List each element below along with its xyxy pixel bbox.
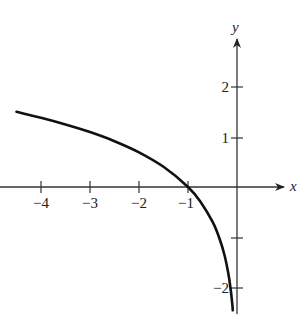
x-tick-label: −4 <box>33 195 49 211</box>
x-tick-label: −3 <box>82 195 98 211</box>
y-tick-label: 1 <box>222 130 230 146</box>
x-axis-label: x <box>289 178 297 194</box>
function-curve <box>17 112 233 310</box>
y-axis-label: y <box>230 19 239 35</box>
y-tick-label: −2 <box>213 280 229 296</box>
x-ticks: −4 −3 −2 −1 <box>33 181 194 211</box>
x-tick-label: −1 <box>178 195 194 211</box>
y-tick-label: 2 <box>222 79 230 95</box>
x-tick-label: −2 <box>131 195 147 211</box>
function-plot: x y −4 −3 −2 −1 2 1 −2 <box>0 0 306 325</box>
